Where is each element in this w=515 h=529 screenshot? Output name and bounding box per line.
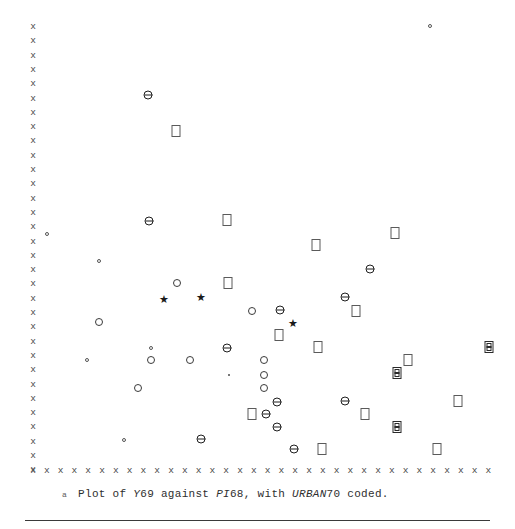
y-axis-tick: x bbox=[29, 22, 38, 32]
data-point-open-square bbox=[172, 125, 181, 137]
y-axis-tick: x bbox=[29, 51, 38, 61]
data-point-open-square bbox=[224, 277, 233, 289]
figure-marker: a bbox=[62, 490, 67, 499]
x-axis-tick: x bbox=[346, 466, 355, 476]
x-axis-tick: x bbox=[374, 466, 383, 476]
data-point-circle-with-bar bbox=[223, 344, 232, 353]
y-axis-tick: x bbox=[29, 322, 38, 332]
data-point-star: ★ bbox=[196, 293, 205, 302]
y-axis-tick: x bbox=[29, 237, 38, 247]
y-axis-tick: x bbox=[29, 108, 38, 118]
data-point-circle-with-bar bbox=[341, 397, 350, 406]
data-point-open-circle bbox=[186, 356, 194, 364]
y-axis-tick: x bbox=[29, 179, 38, 189]
scatter-plot-figure: xxxxxxxxxxxxxxxxxxxxxxxxxxxxxxxx xxxxxxx… bbox=[0, 0, 515, 529]
y-axis-tick: x bbox=[29, 208, 38, 218]
y-axis-tick: x bbox=[29, 194, 38, 204]
x-axis-tick: x bbox=[153, 466, 162, 476]
data-point-open-circle bbox=[260, 384, 268, 392]
y-axis-tick: x bbox=[29, 451, 38, 461]
x-axis-tick: x bbox=[56, 466, 65, 476]
data-point-circle-with-bar bbox=[145, 217, 154, 226]
y-axis-tick: x bbox=[29, 380, 38, 390]
x-axis-tick: x bbox=[84, 466, 93, 476]
y-axis-tick: x bbox=[29, 365, 38, 375]
data-point-small-open-circle bbox=[428, 24, 432, 28]
y-axis-tick: x bbox=[29, 65, 38, 75]
data-point-circle-with-bar bbox=[273, 398, 282, 407]
x-axis-tick: x bbox=[194, 466, 203, 476]
x-axis-tick: x bbox=[167, 466, 176, 476]
data-point-open-square bbox=[454, 395, 463, 407]
x-axis-tick: x bbox=[208, 466, 217, 476]
x-axis-tick: x bbox=[415, 466, 424, 476]
x-axis-tick: x bbox=[222, 466, 231, 476]
y-axis-tick: x bbox=[29, 222, 38, 232]
y-axis-tick: x bbox=[29, 94, 38, 104]
data-point-boxed-square bbox=[393, 421, 402, 433]
y-axis-tick: x bbox=[29, 308, 38, 318]
data-point-open-square bbox=[318, 443, 327, 455]
x-axis-tick: x bbox=[70, 466, 79, 476]
figure-caption: aPlot of Y69 against PI68, with URBAN70 … bbox=[62, 487, 389, 502]
y-axis-tick: x bbox=[29, 36, 38, 46]
x-axis-tick: x bbox=[360, 466, 369, 476]
y-axis-tick: x bbox=[29, 165, 38, 175]
caption-segment: PI bbox=[216, 488, 230, 500]
data-point-open-square bbox=[223, 214, 232, 226]
y-axis-tick: x bbox=[29, 79, 38, 89]
y-axis-tick: x bbox=[29, 265, 38, 275]
x-axis-tick: x bbox=[429, 466, 438, 476]
x-axis-tick: x bbox=[332, 466, 341, 476]
x-axis-tick: x bbox=[236, 466, 245, 476]
x-axis-tick: x bbox=[318, 466, 327, 476]
data-point-small-open-circle bbox=[97, 259, 101, 263]
y-axis-tick: x bbox=[29, 422, 38, 432]
x-axis-tick: x bbox=[29, 466, 38, 476]
data-point-open-square bbox=[404, 354, 413, 366]
caption-segment: 68, with bbox=[230, 488, 292, 500]
x-axis-tick: x bbox=[305, 466, 314, 476]
data-point-circle-with-bar bbox=[276, 306, 285, 315]
data-point-small-open-circle bbox=[45, 232, 49, 236]
figure-caption-text: Plot of Y69 against PI68, with URBAN70 c… bbox=[78, 488, 389, 500]
data-point-star: ★ bbox=[288, 319, 297, 328]
x-axis-tick: x bbox=[387, 466, 396, 476]
x-axis-tick: x bbox=[249, 466, 258, 476]
y-axis-tick: x bbox=[29, 279, 38, 289]
data-point-circle-with-bar bbox=[273, 423, 282, 432]
data-point-circle-with-bar bbox=[197, 435, 206, 444]
x-axis-tick: x bbox=[470, 466, 479, 476]
data-point-open-circle bbox=[147, 356, 155, 364]
y-axis-tick: x bbox=[29, 394, 38, 404]
x-axis-tick: x bbox=[277, 466, 286, 476]
data-point-circle-with-bar bbox=[366, 265, 375, 274]
x-axis-tick: x bbox=[456, 466, 465, 476]
data-point-open-square bbox=[352, 305, 361, 317]
data-point-open-circle bbox=[260, 356, 268, 364]
y-axis-tick: x bbox=[29, 151, 38, 161]
caption-segment: Plot of bbox=[78, 488, 133, 500]
data-point-open-circle bbox=[173, 279, 181, 287]
data-point-star: ★ bbox=[159, 295, 168, 304]
x-axis-tick: x bbox=[139, 466, 148, 476]
data-point-open-square bbox=[361, 408, 370, 420]
data-point-open-circle bbox=[248, 307, 256, 315]
data-point-open-circle bbox=[134, 384, 142, 392]
x-axis-tick: x bbox=[443, 466, 452, 476]
x-axis-tick: x bbox=[42, 466, 51, 476]
y-axis-tick: x bbox=[29, 351, 38, 361]
data-point-circle-with-bar bbox=[341, 293, 350, 302]
y-axis-tick: x bbox=[29, 294, 38, 304]
x-axis-tick: x bbox=[263, 466, 272, 476]
x-axis-tick: x bbox=[111, 466, 120, 476]
caption-segment: 70 coded. bbox=[327, 488, 389, 500]
data-point-open-square bbox=[248, 408, 257, 420]
data-point-circle-with-bar bbox=[290, 445, 299, 454]
x-axis-tick: x bbox=[125, 466, 134, 476]
caption-segment: URBAN bbox=[292, 488, 327, 500]
x-axis-tick: x bbox=[484, 466, 493, 476]
horizontal-rule bbox=[25, 520, 490, 521]
y-axis-tick: x bbox=[29, 337, 38, 347]
data-point-open-square bbox=[275, 329, 284, 341]
